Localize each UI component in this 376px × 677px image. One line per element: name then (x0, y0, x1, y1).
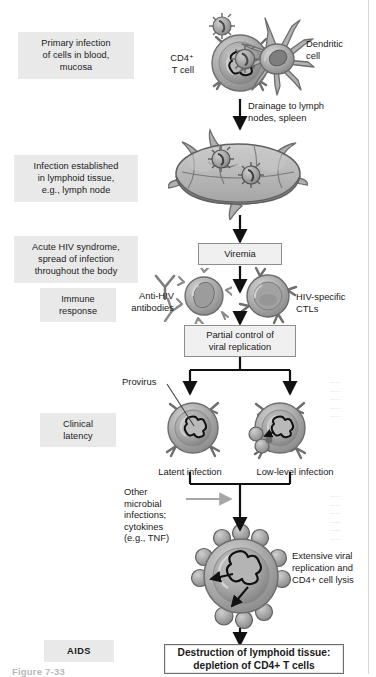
ghost-text-block-b: —— —— —— —— —— —— (330, 492, 370, 544)
annotation-anti-hiv-antibodies: Anti-HIV antibodies (118, 290, 174, 314)
annotation-latent-infection: Latent infection (144, 466, 236, 478)
lymph-node-illustration (168, 128, 308, 220)
stage-label-aids: AIDS (44, 640, 114, 662)
extensive-replication-cell-illustration (186, 524, 296, 630)
stage-label-primary-infection: Primary infection of cells in blood, muc… (18, 32, 134, 79)
stage-label-infection-established: Infection established in lymphoid tissue… (14, 155, 138, 202)
figure-caption: Figure 7-33 (12, 666, 65, 677)
latent-infection-cell-illustration (156, 392, 230, 464)
virion-icon-dendritic (230, 44, 260, 74)
virion-icon-top (208, 12, 236, 40)
low-level-infection-cell-illustration (238, 392, 318, 466)
stage-label-acute-hiv-syndrome: Acute HIV syndrome, spread of infection … (14, 236, 138, 283)
annotation-other-microbial: Other microbial infections; cytokines (e… (124, 486, 186, 544)
ghost-text-block-a: —— —— —— —— —— (330, 378, 370, 421)
annotation-hiv-specific-ctls: HIV-specific CTLs (296, 291, 372, 315)
ctl-cell-illustration (238, 266, 298, 326)
process-box-destruction: Destruction of lymphoid tissue: depletio… (164, 644, 344, 674)
process-box-partial-control: Partial control of viral replication (184, 325, 296, 357)
process-box-viremia: Viremia (198, 243, 282, 265)
stage-label-clinical-latency: Clinical latency (40, 413, 116, 447)
annotation-cd4-t-cell: CD4⁺ T cell (146, 52, 194, 76)
annotation-dendritic-cell: Dendritic cell (306, 38, 372, 62)
annotation-extensive-replication: Extensive viral replication and CD4+ cel… (292, 550, 376, 587)
antibody-coated-cell-illustration (176, 268, 232, 324)
stage-label-immune-response: Immune response (40, 288, 116, 322)
annotation-low-level-infection: Low-level infection (240, 466, 350, 478)
annotation-drainage: Drainage to lymph nodes, spleen (248, 100, 364, 124)
annotation-provirus: Provirus (122, 376, 178, 388)
